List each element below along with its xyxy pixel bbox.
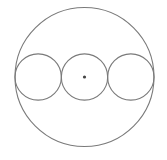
center-point: [83, 75, 86, 78]
inner-circle-left: [15, 54, 61, 100]
circles-diagram: [0, 0, 167, 160]
inner-circle-right: [108, 54, 154, 100]
